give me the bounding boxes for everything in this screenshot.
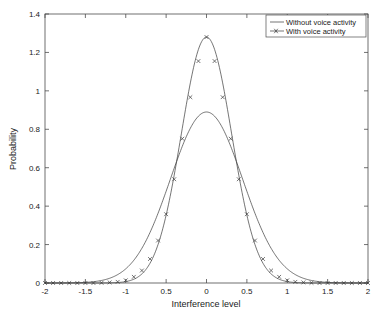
x-axis-label: Interference level [171,299,240,309]
data-point-marker-x-icon [197,59,201,63]
x-tick-label: 1 [285,287,290,296]
data-point-marker-x-icon [148,257,152,261]
data-point-marker-x-icon [172,177,176,181]
x-tick-label: 0.5 [241,287,253,296]
data-point-marker-x-icon [108,281,112,285]
y-axis-tick-labels: 00.20.40.60.811.21.4 [29,10,41,288]
legend-label-without-voice-activity: Without voice activity [286,18,356,27]
data-series-layer [43,35,370,285]
series-line [45,37,368,283]
y-tick-label: 0.8 [29,125,41,134]
data-point-marker-x-icon [302,281,306,285]
x-tick-label: 2 [366,287,371,296]
data-point-marker-x-icon [180,137,184,141]
data-point-marker-x-icon [213,59,217,63]
series-2 [43,35,370,285]
y-axis-label: Probability [8,127,18,170]
data-point-marker-x-icon [132,275,136,279]
legend-label-with-voice-activity: With voice activity [286,27,346,36]
data-point-marker-x-icon [261,257,265,261]
y-tick-label: 0.2 [29,241,41,250]
y-tick-label: 0.6 [29,164,41,173]
series-1 [45,112,368,283]
data-point-marker-x-icon [188,95,192,99]
figure-container: 00.20.40.60.811.21.4 -2-1.5-10.500.511.5… [0,0,392,320]
data-point-marker-x-icon [277,275,281,279]
y-tick-label: 1 [36,87,41,96]
x-tick-label: 0 [204,287,209,296]
data-point-marker-x-icon [237,177,241,181]
x-axis-tick-labels: -2-1.5-10.500.511.52 [41,287,370,296]
series-line [45,112,368,283]
x-tick-label: 1.5 [322,287,334,296]
x-tick-label: 0.5 [161,287,173,296]
data-point-marker-x-icon [269,269,273,273]
chart-legend[interactable]: Without voice activity With voice activi… [266,15,366,37]
y-tick-label: 0.4 [29,202,41,211]
y-tick-label: 1.2 [29,48,41,57]
y-tick-label: 1.4 [29,10,41,19]
data-point-marker-x-icon [229,137,233,141]
data-point-marker-x-icon [140,269,144,273]
y-tick-label: 0 [36,279,41,288]
x-tick-label: -1.5 [78,287,92,296]
x-axis-ticks [45,14,368,283]
data-point-marker-x-icon [221,95,225,99]
y-axis-ticks [45,14,368,283]
chart-plot: 00.20.40.60.811.21.4 -2-1.5-10.500.511.5… [0,0,392,320]
axes-frame [45,14,368,283]
x-tick-label: -1 [122,287,130,296]
x-tick-label: -2 [41,287,49,296]
